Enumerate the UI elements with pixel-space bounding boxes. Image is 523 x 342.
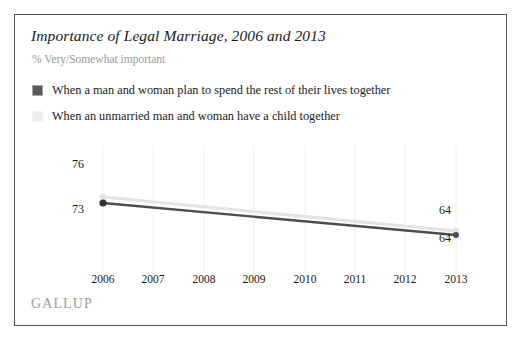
plot-area bbox=[15, 145, 506, 285]
legend-swatch-dark-icon bbox=[32, 85, 43, 96]
x-axis: 2006 2007 2008 2009 2010 2011 2012 2013 bbox=[15, 273, 506, 295]
legend-label-dark: When a man and woman plan to spend the r… bbox=[52, 83, 390, 98]
x-tick-2007: 2007 bbox=[142, 273, 165, 285]
x-tick-2011: 2011 bbox=[344, 273, 367, 285]
data-label-light-2013: 64 bbox=[439, 203, 451, 218]
x-tick-2008: 2008 bbox=[193, 273, 216, 285]
gallup-logo: GALLUP bbox=[31, 296, 93, 312]
x-tick-2012: 2012 bbox=[394, 273, 417, 285]
x-tick-2013: 2013 bbox=[445, 273, 468, 285]
data-label-dark-2013: 64 bbox=[439, 231, 451, 246]
gallup-chart-card: Importance of Legal Marriage, 2006 and 2… bbox=[14, 14, 507, 326]
legend-label-light: When an unmarried man and woman have a c… bbox=[52, 109, 340, 124]
legend-item-dark: When a man and woman plan to spend the r… bbox=[32, 83, 390, 98]
page-title: Importance of Legal Marriage, 2006 and 2… bbox=[31, 27, 326, 45]
x-tick-2006: 2006 bbox=[92, 273, 115, 285]
x-tick-2009: 2009 bbox=[243, 273, 266, 285]
x-tick-2010: 2010 bbox=[294, 273, 317, 285]
data-label-dark-2006: 73 bbox=[72, 202, 84, 217]
data-label-light-2006: 76 bbox=[72, 157, 84, 172]
line-chart-svg bbox=[15, 145, 506, 285]
legend-swatch-light-icon bbox=[32, 111, 43, 122]
legend-item-light: When an unmarried man and woman have a c… bbox=[32, 109, 340, 124]
chart-subtitle: % Very/Somewhat important bbox=[32, 53, 165, 65]
